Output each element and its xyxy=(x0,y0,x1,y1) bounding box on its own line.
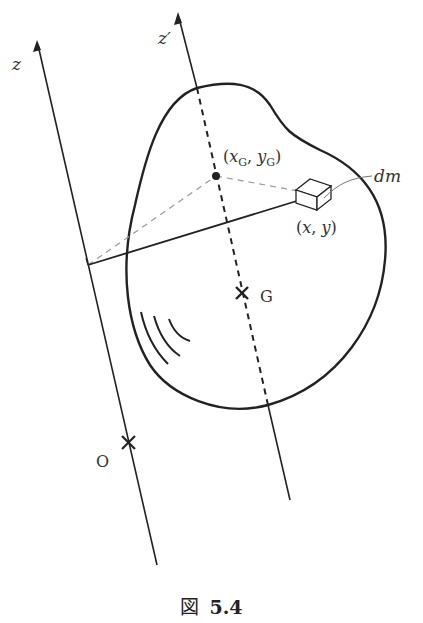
rigid-body-axis-diagram: z z′ (xG, yG) dm (x, y) G xyxy=(0,0,423,623)
figure-caption: 図5.4 xyxy=(0,592,423,619)
element-coords-label: (x, y) xyxy=(296,218,337,237)
z-prime-axis-arrow-icon xyxy=(174,12,182,25)
z-prime-axis xyxy=(174,12,290,500)
rotation-arcs-icon xyxy=(141,312,190,364)
centroid-dot xyxy=(212,172,220,180)
guide-line-axis-to-centroid xyxy=(88,176,216,265)
z-axis-label: z xyxy=(11,54,22,74)
origin-label: O xyxy=(96,452,109,471)
z-axis xyxy=(33,40,157,565)
center-of-mass-label: G xyxy=(260,287,273,306)
mass-element-cube-icon xyxy=(296,179,331,210)
mass-element-label: dm xyxy=(374,166,401,186)
caption-number: 5.4 xyxy=(209,596,242,618)
centroid-coords-label: (xG, yG) xyxy=(223,147,281,169)
z-axis-arrow-icon xyxy=(33,40,41,52)
center-of-mass-cross-icon xyxy=(236,287,248,299)
z-prime-axis-label: z′ xyxy=(157,28,171,48)
distance-line-z-to-element xyxy=(88,200,300,265)
guide-line-centroid-to-element xyxy=(216,176,298,191)
caption-prefix: 図 xyxy=(180,596,199,618)
